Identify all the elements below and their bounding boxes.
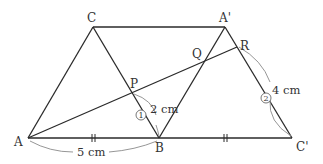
arc-AB	[30, 141, 73, 152]
marker-one: 1	[139, 111, 144, 120]
label-Q: Q	[192, 47, 202, 61]
segment-B-Aprime	[159, 27, 225, 138]
measure-RC: 4 cm	[272, 83, 300, 97]
marker-two: 2	[264, 94, 269, 103]
measure-AB: 5 cm	[77, 145, 105, 159]
segment-A-R	[28, 47, 237, 138]
label-B: B	[155, 141, 164, 155]
label-C: C	[87, 11, 96, 25]
label-Cprime: C'	[296, 140, 308, 154]
label-P: P	[130, 77, 138, 91]
arc-AB-right	[109, 141, 157, 152]
geometry-diagram: A B C' C A' P Q R 5 cm 2 cm 4 cm 1 2	[0, 0, 323, 164]
segment-A-C	[28, 27, 93, 138]
label-Aprime: A'	[218, 11, 231, 25]
label-A: A	[13, 135, 23, 149]
segment-C-B	[93, 27, 159, 138]
measure-PB: 2 cm	[150, 102, 178, 116]
label-R: R	[240, 39, 250, 53]
figure-lines	[28, 27, 292, 138]
